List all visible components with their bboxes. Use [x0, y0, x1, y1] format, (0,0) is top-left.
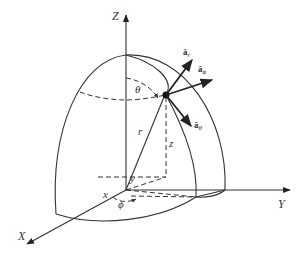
y-axis-label: Y [278, 197, 286, 211]
y-label: y [129, 172, 135, 184]
theta-arc [126, 78, 158, 98]
a-r-sub: r [188, 51, 191, 59]
a-theta-label: âθ [194, 120, 203, 132]
x-label: x [102, 188, 108, 200]
phi-arc [113, 197, 136, 201]
a-theta-sub: θ [199, 124, 203, 132]
sphere-outer-arc [126, 55, 225, 190]
x-axis [27, 190, 126, 244]
unit-vector-a-r [166, 60, 192, 95]
a-phi-label: âϕ [198, 64, 207, 76]
z-label: z [168, 137, 174, 149]
xy-projection [126, 190, 196, 197]
sphere-left-arc [55, 55, 126, 214]
phi-label: ϕ [118, 198, 124, 210]
a-phi-sub: ϕ [203, 68, 207, 76]
theta-label: θ [135, 83, 141, 95]
spherical-coordinates-diagram: Z Y X θ r z x ϕ y âr âϕ âθ [0, 0, 303, 253]
a-r-label: âr [183, 47, 191, 59]
r-label: r [138, 125, 143, 137]
meridian-through-p [126, 55, 196, 197]
latitude-circle [80, 92, 166, 100]
x-axis-label: X [17, 229, 26, 243]
z-axis-label: Z [112, 9, 119, 23]
sphere-bottom-arc [56, 190, 225, 221]
